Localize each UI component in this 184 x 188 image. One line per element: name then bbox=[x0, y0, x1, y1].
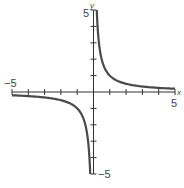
y-axis-label: y bbox=[89, 1, 95, 10]
hyperbola-graph: −5 5 5 −5 x y bbox=[0, 0, 184, 188]
y-max-label: 5 bbox=[83, 7, 89, 19]
axes bbox=[12, 10, 175, 174]
left-branch-curve bbox=[12, 95, 90, 174]
x-min-label: −5 bbox=[4, 77, 17, 89]
x-max-label: 5 bbox=[171, 97, 177, 109]
right-branch-curve bbox=[97, 10, 175, 89]
y-min-label: −5 bbox=[98, 168, 111, 180]
x-axis-label: x bbox=[176, 88, 182, 97]
